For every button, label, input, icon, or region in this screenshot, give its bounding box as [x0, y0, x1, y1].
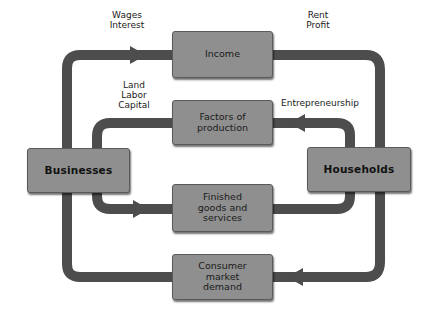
- node-businesses: Businesses: [27, 148, 130, 193]
- node-households-label: Households: [324, 164, 395, 175]
- label-wages-interest: Wages Interest: [105, 10, 149, 30]
- node-income-label: Income: [205, 49, 240, 60]
- label-entrepreneurship: Entrepreneurship: [278, 98, 362, 108]
- node-income: Income: [172, 31, 273, 78]
- node-factors-label: Factors of production: [197, 112, 248, 133]
- node-consumer-demand: Consumer market demand: [172, 254, 273, 300]
- arrow-left-icon: [289, 114, 305, 132]
- label-rent-profit: Rent Profit: [300, 10, 336, 30]
- arrow-right-icon: [133, 200, 149, 218]
- node-finished-goods: Finished goods and services: [172, 184, 273, 232]
- node-finished-label: Finished goods and services: [198, 192, 248, 224]
- node-businesses-label: Businesses: [45, 165, 113, 176]
- arrow-left-icon: [287, 268, 303, 286]
- circular-flow-diagram: Wages Interest Rent Profit Land Labor Ca…: [0, 0, 438, 314]
- label-land-labor-capital: Land Labor Capital: [110, 80, 158, 110]
- pipe-factors-businesses: [97, 123, 172, 150]
- pipe-households-factors: [273, 123, 350, 148]
- node-households: Households: [307, 147, 411, 192]
- pipe-finished-households: [273, 192, 350, 209]
- node-factors-of-production: Factors of production: [172, 100, 273, 145]
- node-consumer-label: Consumer market demand: [198, 261, 246, 293]
- arrow-right-icon: [130, 46, 146, 64]
